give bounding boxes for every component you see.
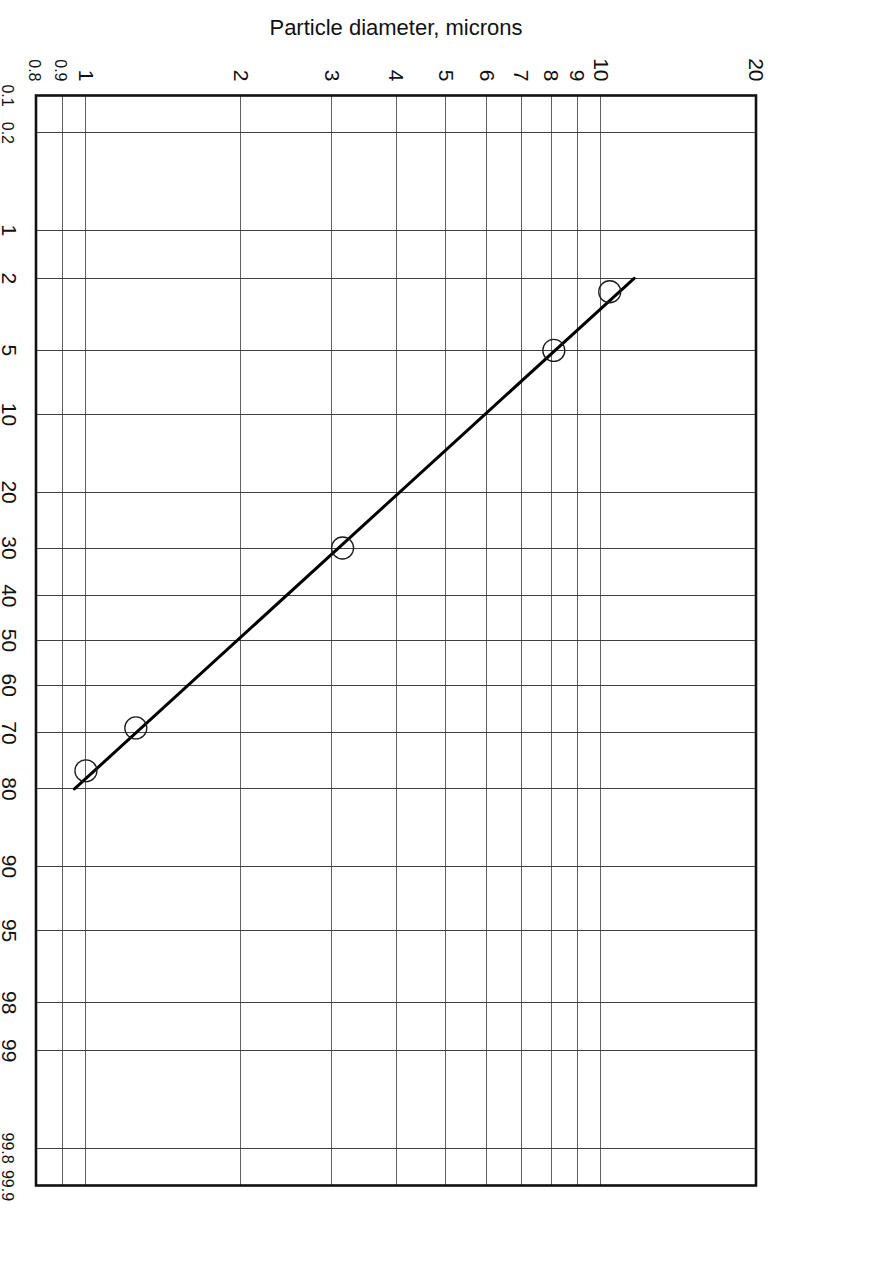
rotated-figure-wrapper: 0.10.212510203040506070809095989999.899.… — [0, 0, 876, 1261]
x-tick-label-99.8: 99.8 — [0, 1132, 16, 1163]
x-tick-label-0.1: 0.1 — [0, 84, 16, 106]
x-tick-label-99.9: 99.9 — [0, 1169, 16, 1200]
y-tick-label-0.9: 0.9 — [52, 59, 69, 81]
x-tick-label-99: 99 — [0, 1039, 21, 1062]
y-tick-label-8: 8 — [540, 69, 563, 81]
x-tick-label-20: 20 — [0, 480, 21, 503]
y-axis-title: Particle diameter, microns — [269, 14, 522, 39]
y-tick-label-2: 2 — [230, 69, 253, 81]
x-tick-label-95: 95 — [0, 918, 21, 941]
figure-page: 0.10.212510203040506070809095989999.899.… — [0, 0, 876, 1261]
y-tick-label-5: 5 — [435, 69, 458, 81]
x-tick-label-1: 1 — [0, 224, 21, 236]
x-tick-label-70: 70 — [0, 721, 21, 744]
x-tick-label-90: 90 — [0, 854, 21, 877]
y-tick-label-6: 6 — [476, 69, 499, 81]
x-tick-label-60: 60 — [0, 673, 21, 696]
y-tick-label-9: 9 — [566, 69, 589, 81]
y-axis-tick-labels: 0.80.91234567891020 — [26, 58, 768, 82]
chart-figure: 0.10.212510203040506070809095989999.899.… — [0, 0, 876, 1261]
particle-size-distribution-chart: 0.10.212510203040506070809095989999.899.… — [0, 0, 876, 1261]
x-tick-label-10: 10 — [0, 402, 21, 425]
y-tick-label-3: 3 — [321, 69, 344, 81]
x-tick-label-2: 2 — [0, 272, 21, 284]
y-tick-label-4: 4 — [385, 69, 408, 81]
x-tick-label-80: 80 — [0, 777, 21, 800]
x-tick-label-5: 5 — [0, 344, 21, 356]
y-tick-label-20: 20 — [745, 58, 768, 81]
y-tick-label-0.8: 0.8 — [26, 59, 43, 81]
y-tick-label-10: 10 — [590, 58, 613, 81]
x-tick-label-30: 30 — [0, 536, 21, 559]
y-tick-label-7: 7 — [510, 69, 533, 81]
x-tick-label-50: 50 — [0, 628, 21, 651]
x-tick-label-0.2: 0.2 — [0, 121, 16, 143]
x-axis-title: % Greater than stated size — [0, 510, 1, 770]
y-tick-label-1: 1 — [75, 69, 98, 81]
x-tick-label-98: 98 — [0, 991, 21, 1014]
x-tick-label-40: 40 — [0, 584, 21, 607]
x-axis-tick-labels: 0.10.212510203040506070809095989999.899.… — [0, 84, 21, 1201]
